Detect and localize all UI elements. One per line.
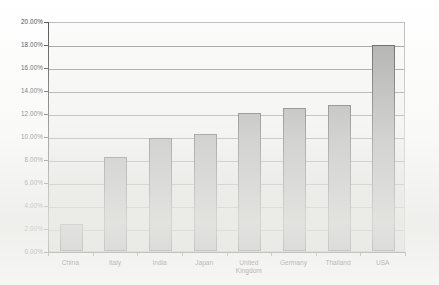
y-axis-tick-label: 16.00% [0,65,43,71]
x-axis-tick [405,253,406,256]
x-axis-tick [93,253,94,256]
y-axis-tick [44,137,48,138]
y-axis-tick [44,91,48,92]
y-axis-tick [44,22,48,23]
y-axis-tick [44,68,48,69]
y-axis-tick [44,183,48,184]
bar [328,105,351,251]
y-axis-tick [44,206,48,207]
y-axis-tick-label: 10.00% [0,134,43,140]
x-axis-tick [182,253,183,256]
plot-area [48,22,405,252]
x-axis-tick-label: Thailand [316,259,361,267]
y-axis-tick [44,229,48,230]
x-axis-tick-label: India [137,259,182,267]
bar [283,108,306,251]
x-axis-tick-label: Japan [182,259,227,267]
x-axis-tick-label: Germany [271,259,316,267]
bars-layer [49,23,404,251]
bar [238,113,261,251]
bar [149,138,172,251]
y-axis-tick-label: 20.00% [0,19,43,25]
bar [194,134,217,251]
y-axis-tick-label: 8.00% [0,157,43,163]
bar [60,224,83,251]
x-axis-tick [271,253,272,256]
y-axis-tick-label: 2.00% [0,226,43,232]
x-axis-tick-label: USA [360,259,405,267]
bar [372,45,395,251]
y-axis-line [48,22,49,253]
y-axis-tick [44,45,48,46]
y-axis-tick-label: 4.00% [0,203,43,209]
y-axis-tick-label: 12.00% [0,111,43,117]
bar [104,157,127,251]
y-axis-tick-label: 6.00% [0,180,43,186]
x-axis-tick-label: United Kingdom [227,259,272,275]
y-axis-tick [44,114,48,115]
x-axis-tick [360,253,361,256]
x-axis-tick [48,253,49,256]
y-axis-tick-label: 0.00% [0,249,43,255]
y-axis-tick [44,160,48,161]
x-axis-tick-label: China [48,259,93,267]
x-axis-tick [137,253,138,256]
x-axis-tick-label: Italy [93,259,138,267]
y-axis-tick-label: 18.00% [0,42,43,48]
x-axis-tick [316,253,317,256]
bar-chart: 0.00%2.00%4.00%6.00%8.00%10.00%12.00%14.… [0,0,439,285]
y-axis-tick-label: 14.00% [0,88,43,94]
x-axis-tick [227,253,228,256]
